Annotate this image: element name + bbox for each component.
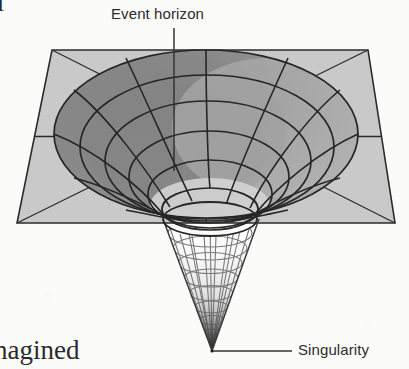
event-horizon-label: Event horizon — [111, 6, 204, 21]
singularity-label: Singularity — [298, 342, 369, 357]
cone-apex-shading — [163, 219, 259, 351]
page-text-fragment-bottom: nagined — [0, 337, 79, 364]
figure-root: Event horizon Singularity l nagined — [0, 0, 409, 369]
spacetime-funnel-diagram — [0, 0, 409, 369]
page-text-fragment-top: l — [0, 0, 4, 16]
